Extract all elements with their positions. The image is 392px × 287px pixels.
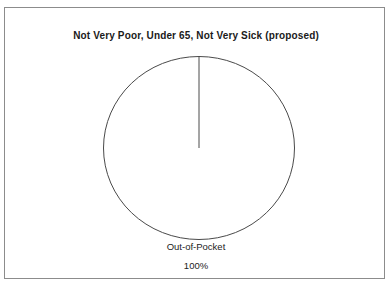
chart-title: Not Very Poor, Under 65, Not Very Sick (… — [0, 29, 392, 42]
slice-label-out-of-pocket: Out-of-Pocket — [0, 241, 392, 253]
pie-plot-area — [102, 55, 296, 241]
slice-value-out-of-pocket: 100% — [0, 260, 392, 272]
pie-graphic — [102, 55, 296, 241]
pie-slice-label-group: Out-of-Pocket 100% — [0, 241, 392, 272]
pie-chart-figure: Not Very Poor, Under 65, Not Very Sick (… — [0, 0, 392, 287]
